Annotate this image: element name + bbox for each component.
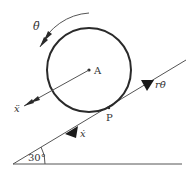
theta-ddot-label: θ̈	[33, 20, 40, 33]
r-theta-dot-label: rθ̇	[155, 79, 166, 90]
center-label-a: A	[93, 65, 102, 76]
angle-label: 30°	[28, 152, 46, 163]
contact-point-p	[108, 107, 110, 109]
contact-label-p: P	[106, 112, 113, 123]
theta-ddot-double-arrowhead-icon	[40, 31, 52, 47]
x-ddot-double-arrowhead-icon	[24, 96, 40, 106]
x-ddot-label: ẍ	[14, 103, 20, 114]
x-dot-label: ẋ	[80, 128, 86, 139]
theta-ddot-arc	[40, 13, 89, 47]
diagram-canvas: θ̈ A ẍ P ẋ rθ̇ 30°	[0, 0, 195, 173]
